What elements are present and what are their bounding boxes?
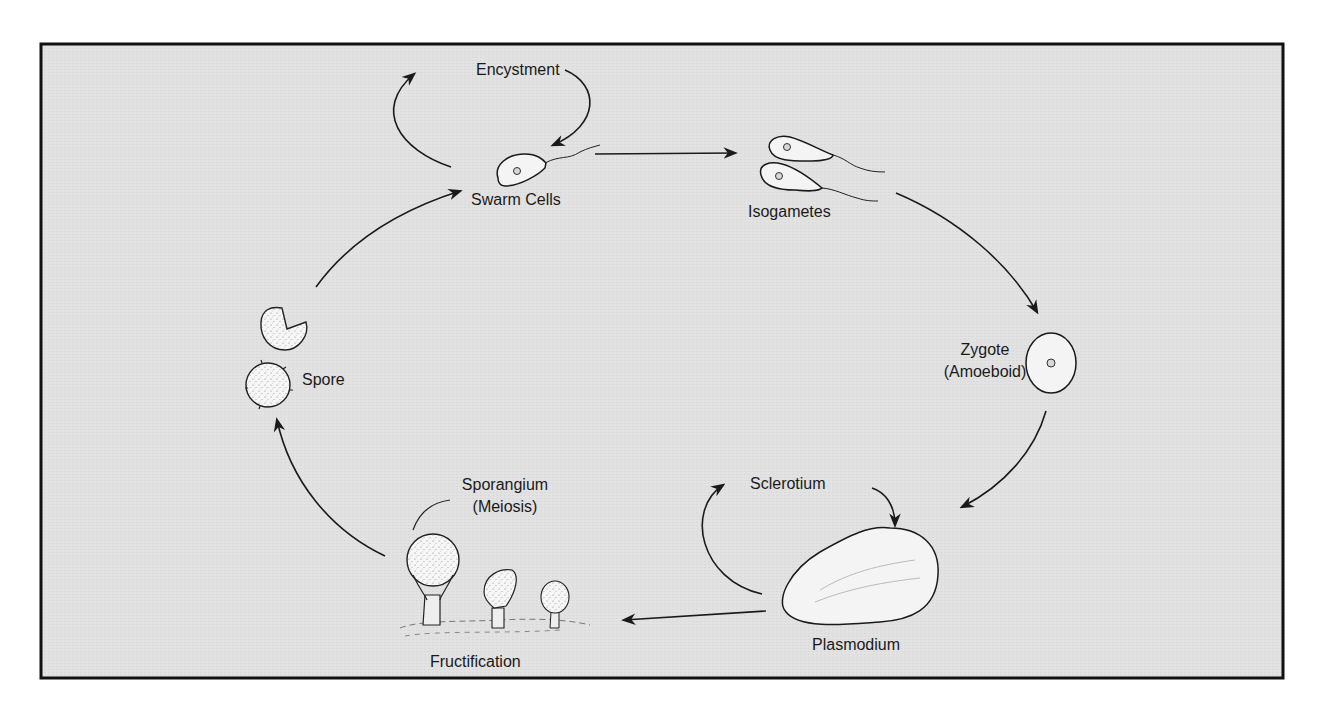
diagram-panel bbox=[41, 44, 1283, 678]
label-sporangium: Sporangium bbox=[462, 476, 548, 493]
label-spore: Spore bbox=[302, 371, 345, 388]
label-zygote-amoeboid: (Amoeboid) bbox=[944, 363, 1027, 380]
arrow-swarm-to-isogametes bbox=[595, 153, 735, 154]
label-encystment: Encystment bbox=[476, 61, 560, 78]
label-fructification: Fructification bbox=[430, 653, 521, 670]
zygote-illustration bbox=[1026, 333, 1076, 393]
label-zygote: Zygote bbox=[961, 341, 1010, 358]
slime-mold-life-cycle-diagram: Encystment Swarm Cells Isogametes Zygote… bbox=[0, 0, 1319, 709]
label-swarm-cells: Swarm Cells bbox=[471, 191, 561, 208]
label-sclerotium: Sclerotium bbox=[750, 475, 826, 492]
label-plasmodium: Plasmodium bbox=[812, 636, 900, 653]
label-sporangium-meiosis: (Meiosis) bbox=[473, 498, 538, 515]
label-isogametes: Isogametes bbox=[748, 203, 831, 220]
